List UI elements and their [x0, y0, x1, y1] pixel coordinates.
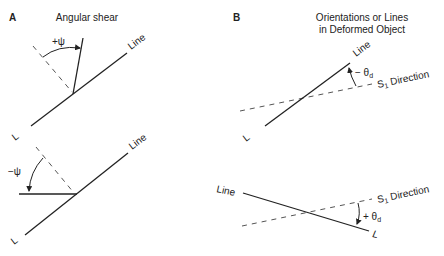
original-orientation-dashed — [36, 147, 74, 193]
line-label: Line — [216, 183, 237, 198]
panel-a-bottom-figure: −ψ Line L — [8, 131, 149, 246]
angle-label-plus-theta: + θd — [363, 211, 381, 223]
end-label-l: L — [9, 234, 20, 246]
angle-label-plus-psi: +ψ — [52, 36, 65, 47]
s1-direction-dashed — [240, 84, 372, 111]
panel-a-top-figure: +ψ Line L — [10, 31, 148, 142]
line-label: Line — [351, 38, 373, 58]
s1-direction-label: S1 Direction — [376, 183, 430, 206]
panel-b-subtitle: in Deformed Object — [319, 24, 405, 35]
deformed-line — [265, 63, 350, 126]
end-label-l: L — [372, 228, 380, 240]
s1-direction-label: S1 Direction — [376, 68, 430, 91]
line-label: Line — [126, 31, 148, 51]
angle-arc-positive — [43, 47, 80, 57]
panel-b: B Orientations or Lines in Deformed Obje… — [216, 12, 431, 240]
end-label-l: L — [10, 130, 21, 142]
angle-label-minus-psi: −ψ — [8, 166, 21, 177]
deformed-line — [243, 193, 369, 231]
panel-letter-a: A — [9, 12, 16, 23]
diagram-canvas: A Angular shear +ψ Line L −ψ Line L B Or… — [0, 0, 444, 256]
angle-arc-negative — [29, 158, 43, 191]
sheared-line — [73, 38, 83, 94]
panel-a: A Angular shear +ψ Line L −ψ Line L — [8, 12, 149, 247]
panel-letter-b: B — [233, 12, 240, 23]
panel-b-title: Orientations or Lines — [316, 12, 408, 23]
panel-b-bottom-figure: + θd S1 Direction Line L — [216, 183, 431, 240]
panel-a-title: Angular shear — [56, 12, 119, 23]
angle-label-minus-theta: − θd — [355, 67, 373, 79]
line-label: Line — [127, 131, 149, 151]
panel-b-top-figure: − θd S1 Direction Line L — [240, 38, 430, 143]
angle-arc-positive — [357, 203, 359, 224]
original-orientation-dashed — [33, 46, 72, 92]
end-label-l: L — [241, 131, 252, 143]
